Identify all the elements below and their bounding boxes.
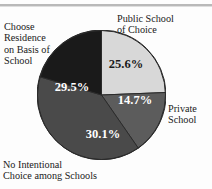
pie-chart-figure: 25.6% 14.7% 30.1% 29.5% Choose Residence… [0,0,212,189]
category-label-public-school-of-choice: Public School of Choice [117,13,209,36]
slice-value-private-school: 14.7% [118,93,152,107]
slice-value-public-school: 25.6% [109,57,143,71]
category-label-choose-residence: Choose Residence on Basis of School [4,21,70,67]
slice-value-choose-residence: 29.5% [55,80,89,94]
top-divider-rule [0,4,212,6]
slice-value-no-intentional-choice: 30.1% [86,127,120,141]
category-label-private-school: Private School [168,103,212,126]
category-label-no-intentional-choice: No Intentional Choice among Schools [3,159,139,182]
